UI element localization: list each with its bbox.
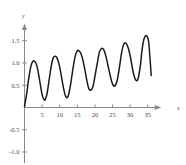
y-axis-arrowhead (22, 23, 27, 30)
x-tick-label: 5 (40, 111, 43, 118)
data-curve-group (25, 36, 152, 107)
x-tick-label: 10 (56, 111, 63, 118)
x-tick-label: 25 (109, 111, 116, 118)
y-tick-label: -0.5 (9, 126, 19, 133)
x-tick-label: 35 (144, 111, 151, 118)
x-tick-label: 30 (127, 111, 134, 118)
y-tick-label: 1.0 (11, 59, 19, 66)
axes-group (22, 23, 161, 163)
y-tick-label: 0.5 (11, 82, 19, 89)
y-tick-label: 1.5 (11, 37, 19, 44)
data-curve (25, 36, 152, 107)
x-tick-label: 15 (74, 111, 81, 118)
y-axis-label: y (22, 13, 25, 19)
x-axis-arrowhead (155, 105, 162, 110)
tick-marks-group (22, 41, 148, 152)
oscillating-curve-plot: 51015202530351.51.00.5-0.5-1.0 (0, 0, 186, 165)
x-tick-label: 20 (92, 111, 99, 118)
y-tick-label: -1.0 (9, 148, 19, 155)
x-axis-label: x (177, 105, 180, 111)
chart-figure: 51015202530351.51.00.5-0.5-1.0 x y (0, 0, 186, 165)
